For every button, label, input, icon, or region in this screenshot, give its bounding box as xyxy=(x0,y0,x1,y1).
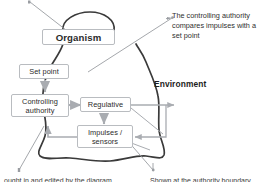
node-impulses-sensors-label: Impulses / sensors xyxy=(78,128,132,146)
node-set-point[interactable]: Set point xyxy=(19,64,69,79)
node-organism[interactable]: Organism xyxy=(42,29,115,45)
diagram-canvas: Organism Set point Controlling authority… xyxy=(0,0,259,182)
bottom-caption-left: ought in and edited by the diagram xyxy=(4,176,112,182)
bottom-caption-right: Shown at the authority boundary xyxy=(150,176,251,182)
callout-controlling-authority: The controlling authority compares impul… xyxy=(172,11,256,42)
environment-label: Environment xyxy=(154,79,206,89)
node-impulses-sensors[interactable]: Impulses / sensors xyxy=(77,125,133,148)
bottom-caption-strip: ought in and edited by the diagram Shown… xyxy=(0,176,259,182)
node-set-point-label: Set point xyxy=(29,67,59,76)
node-controlling-authority[interactable]: Controlling authority xyxy=(11,94,69,117)
node-regulative[interactable]: Regulative xyxy=(80,97,131,112)
node-organism-label: Organism xyxy=(56,33,102,42)
node-regulative-label: Regulative xyxy=(88,100,123,109)
node-controlling-authority-label: Controlling authority xyxy=(12,97,68,115)
